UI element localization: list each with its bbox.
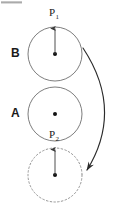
label-body-b: B [11, 46, 20, 60]
label-point-p1-subscript: 1 [56, 13, 60, 21]
circle-a-center-dot [53, 112, 57, 116]
label-point-p2-subscript: 2 [56, 135, 60, 143]
physics-diagram: B P1 A P2 [0, 0, 117, 209]
label-point-p2-base: P [49, 128, 55, 140]
figure-canvas: B P1 A P2 [0, 0, 117, 209]
rolling-motion-curved-arrow [83, 48, 105, 170]
label-point-p1-base: P [49, 6, 55, 18]
label-point-p1: P1 [49, 6, 60, 21]
label-body-a: A [11, 106, 20, 120]
